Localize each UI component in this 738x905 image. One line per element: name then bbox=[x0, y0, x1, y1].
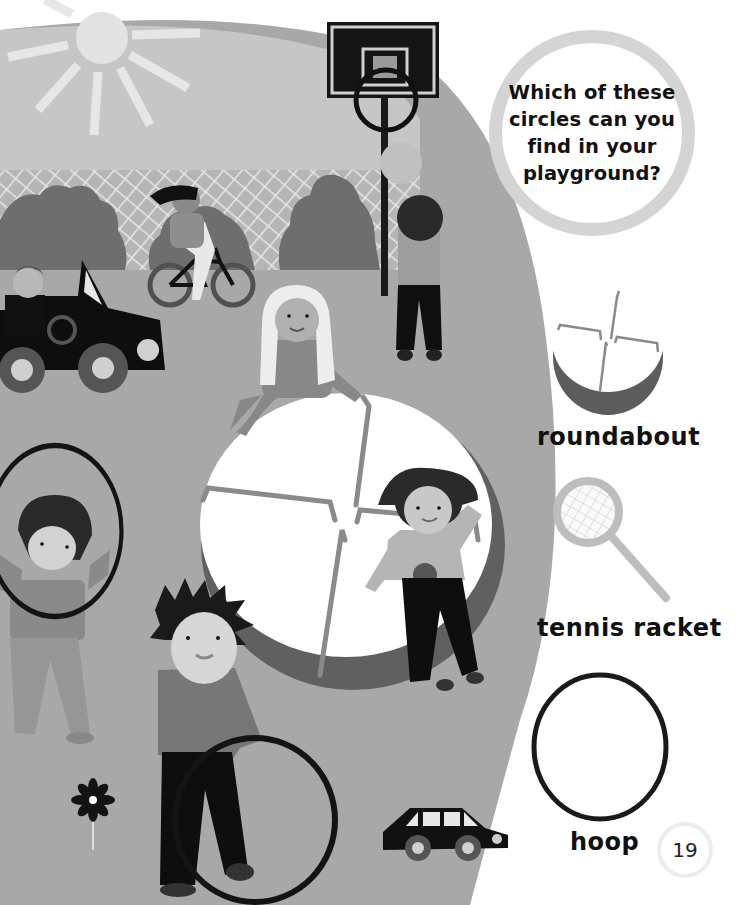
hoop-icon bbox=[534, 675, 666, 819]
roundabout-label: roundabout bbox=[537, 423, 700, 451]
hoop-label: hoop bbox=[570, 828, 639, 856]
tennis-racket-label: tennis racket bbox=[537, 614, 722, 642]
question-bubble: Which of these circles can you find in y… bbox=[489, 30, 695, 236]
ball-icon bbox=[380, 142, 422, 184]
page-number: 19 bbox=[657, 822, 713, 878]
question-text: Which of these circles can you find in y… bbox=[507, 79, 677, 187]
roundabout-icon bbox=[552, 288, 664, 415]
tennis-racket-icon bbox=[557, 481, 666, 598]
